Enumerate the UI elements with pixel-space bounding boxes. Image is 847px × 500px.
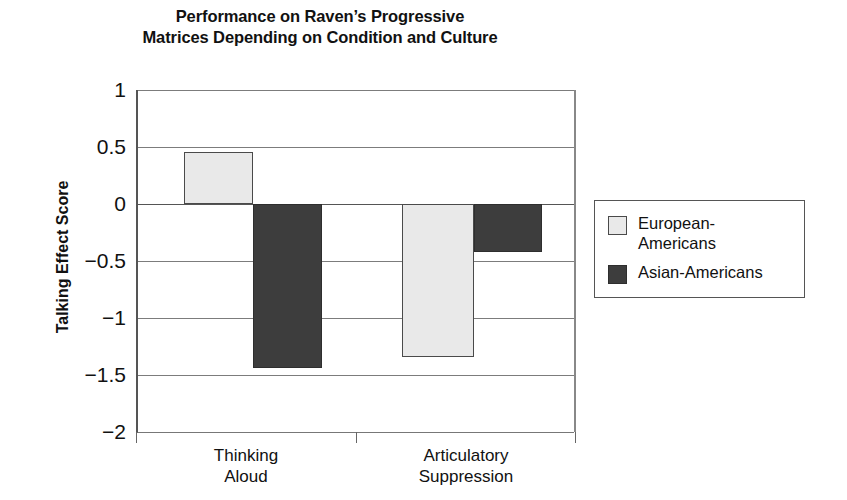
- y-tick-label-3: 0: [56, 192, 126, 216]
- y-tick-label-7: −2: [56, 420, 126, 444]
- y-axis-tick-labels: 1 0.5 0 −0.5 −1 −1.5 −2: [48, 90, 126, 432]
- legend-label-asian-americans: Asian-Americans: [638, 263, 763, 283]
- legend-item-european-americans: European- Americans: [608, 214, 716, 254]
- x-category-thinking-aloud-line-1: Thinking: [146, 446, 346, 467]
- chart-title-line-1: Performance on Raven’s Progressive: [60, 6, 580, 27]
- chart-title-line-2: Matrices Depending on Condition and Cult…: [60, 27, 580, 48]
- x-category-label-articulatory-suppression: Articulatory Suppression: [366, 446, 566, 487]
- legend-swatch-european-americans: [608, 216, 627, 235]
- bar-thinking-aloud-european-americans: [184, 152, 253, 204]
- legend-label-european-americans-line-2: Americans: [638, 234, 716, 254]
- x-category-articulatory-suppression-line-2: Suppression: [366, 467, 566, 488]
- legend-item-asian-americans: Asian-Americans: [608, 263, 763, 284]
- bar-thinking-aloud-asian-americans: [253, 204, 322, 368]
- y-tick-label-5: −1: [56, 306, 126, 330]
- plot-area: [136, 90, 576, 432]
- chart-figure: Performance on Raven’s Progressive Matri…: [0, 0, 847, 500]
- gridline-neg1: [138, 318, 574, 319]
- y-tick-label-4: −0.5: [56, 249, 126, 273]
- y-tick-label-6: −1.5: [56, 363, 126, 387]
- x-tick-left-edge: [136, 432, 137, 443]
- gridline-1: [138, 90, 574, 91]
- x-category-thinking-aloud-line-2: Aloud: [146, 467, 346, 488]
- legend-label-european-americans: European- Americans: [638, 214, 716, 254]
- x-tick-right-edge: [575, 432, 576, 443]
- legend: European- Americans Asian-Americans: [594, 200, 805, 298]
- x-tick-separator: [356, 432, 357, 443]
- legend-label-asian-americans-line-1: Asian-Americans: [638, 263, 763, 283]
- chart-title: Performance on Raven’s Progressive Matri…: [60, 6, 580, 49]
- x-category-articulatory-suppression-line-1: Articulatory: [366, 446, 566, 467]
- legend-swatch-asian-americans: [608, 265, 627, 284]
- gridline-neg1.5: [138, 375, 574, 376]
- y-tick-label-1: 1: [56, 78, 126, 102]
- bar-articulatory-suppression-asian-americans: [474, 204, 542, 252]
- gridline-0.5: [138, 147, 574, 148]
- legend-label-european-americans-line-1: European-: [638, 214, 716, 234]
- x-category-label-thinking-aloud: Thinking Aloud: [146, 446, 346, 487]
- y-tick-label-2: 0.5: [56, 135, 126, 159]
- bar-articulatory-suppression-european-americans: [402, 204, 474, 357]
- gridline-neg0.5: [138, 261, 574, 262]
